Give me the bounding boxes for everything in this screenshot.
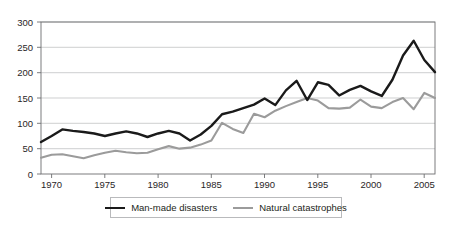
x-tick-label-2005: 2005 xyxy=(414,179,435,190)
x-tick-label-1980: 1980 xyxy=(148,179,169,190)
x-axis-ticks xyxy=(52,174,425,178)
y-tick-label-0: 0 xyxy=(28,169,33,180)
x-axis-tick-labels: 1970 1975 1980 1985 1990 1995 2000 2005 xyxy=(41,179,435,190)
x-tick-label-2000: 2000 xyxy=(360,179,381,190)
y-tick-label-150: 150 xyxy=(17,93,33,104)
y-axis-tick-labels: 300 250 200 150 100 50 0 xyxy=(17,17,33,180)
legend-label-man-made-disasters: Man-made disasters xyxy=(131,202,217,213)
y-tick-label-200: 200 xyxy=(17,67,33,78)
y-tick-label-300: 300 xyxy=(17,17,33,28)
gridlines-group xyxy=(41,22,435,149)
legend-swatch-man-made-disasters xyxy=(105,207,125,209)
legend-entry-natural-catastrophes: Natural catastrophes xyxy=(233,202,347,213)
chart-legend: Man-made disasters Natural catastrophes xyxy=(110,197,342,218)
x-tick-label-1990: 1990 xyxy=(254,179,275,190)
series-line-man-made-disasters xyxy=(41,41,435,142)
y-tick-label-250: 250 xyxy=(17,42,33,53)
chart-figure: 300 250 200 150 100 50 0 1970 1975 1980 … xyxy=(0,0,452,232)
x-tick-label-1975: 1975 xyxy=(94,179,115,190)
legend-label-natural-catastrophes: Natural catastrophes xyxy=(259,202,347,213)
x-tick-label-1995: 1995 xyxy=(307,179,328,190)
line-chart-plot: 300 250 200 150 100 50 0 1970 1975 1980 … xyxy=(0,0,452,192)
y-tick-label-50: 50 xyxy=(22,143,33,154)
legend-swatch-natural-catastrophes xyxy=(233,207,253,209)
legend-entry-man-made-disasters: Man-made disasters xyxy=(105,202,217,213)
y-axis-ticks xyxy=(37,22,41,174)
x-tick-label-1970: 1970 xyxy=(41,179,62,190)
data-series-group xyxy=(41,41,435,159)
y-tick-label-100: 100 xyxy=(17,118,33,129)
x-tick-label-1985: 1985 xyxy=(201,179,222,190)
